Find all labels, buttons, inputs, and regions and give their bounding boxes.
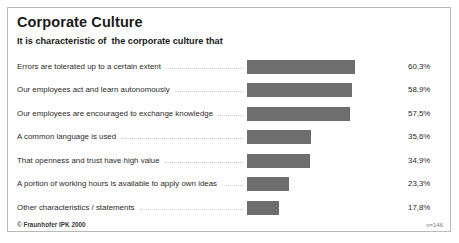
- value-label: 17,8%: [402, 204, 450, 212]
- bar-track: [247, 173, 402, 197]
- chart-row: Our employees are encouraged to exchange…: [8, 102, 450, 126]
- chart-header: Corporate Culture It is characteristic o…: [8, 8, 450, 46]
- bar-track: [247, 55, 402, 79]
- chart-row: Errors are tolerated up to a certain ext…: [8, 55, 450, 79]
- bar: [247, 130, 311, 144]
- bar: [247, 154, 310, 168]
- category-label: A common language is used: [8, 133, 116, 141]
- chart-row: A common language is used35,6%: [8, 126, 450, 150]
- leader-line: [175, 90, 243, 92]
- bar-track: [247, 149, 402, 173]
- chart-row: Our employees act and learn autonomously…: [8, 79, 450, 103]
- leader-line: [222, 184, 243, 186]
- value-label: 34,9%: [402, 157, 450, 165]
- leader-line: [140, 208, 243, 210]
- sample-size-note: n=146: [426, 222, 443, 228]
- page-title: Corporate Culture: [17, 15, 450, 31]
- bar-track: [247, 196, 402, 220]
- chart-footer: © Fraunhofer IPK 2000 n=146: [8, 217, 450, 228]
- value-label: 58,9%: [402, 86, 450, 94]
- bar-chart-plot: Errors are tolerated up to a certain ext…: [8, 55, 450, 231]
- copyright-note: © Fraunhofer IPK 2000: [17, 222, 86, 228]
- category-label: Errors are tolerated up to a certain ext…: [8, 63, 161, 71]
- chart-row: A portion of working hours is available …: [8, 173, 450, 197]
- category-label: Our employees act and learn autonomously: [8, 86, 170, 94]
- bar-track: [247, 79, 402, 103]
- leader-line: [121, 137, 243, 139]
- bar-track: [247, 126, 402, 150]
- bar: [247, 60, 355, 74]
- leader-line: [165, 161, 243, 163]
- leader-line: [166, 67, 243, 69]
- category-label: Our employees are encouraged to exchange…: [8, 110, 213, 118]
- chart-row: Other characteristics / statements17,8%: [8, 196, 450, 220]
- bar: [247, 201, 279, 215]
- category-label: A portion of working hours is available …: [8, 180, 217, 188]
- value-label: 35,6%: [402, 133, 450, 141]
- value-label: 60,3%: [402, 63, 450, 71]
- bar: [247, 177, 289, 191]
- bar-track: [247, 102, 402, 126]
- bar: [247, 83, 352, 97]
- chart-row: That openness and trust have high value3…: [8, 149, 450, 173]
- chart-subtitle: It is characteristic of the corporate cu…: [17, 36, 450, 46]
- value-label: 23,3%: [402, 180, 450, 188]
- chart-slide: Corporate Culture It is characteristic o…: [7, 7, 451, 232]
- leader-line: [218, 114, 243, 116]
- category-label: That openness and trust have high value: [8, 157, 160, 165]
- category-label: Other characteristics / statements: [8, 204, 135, 212]
- bar: [247, 107, 350, 121]
- value-label: 57,5%: [402, 110, 450, 118]
